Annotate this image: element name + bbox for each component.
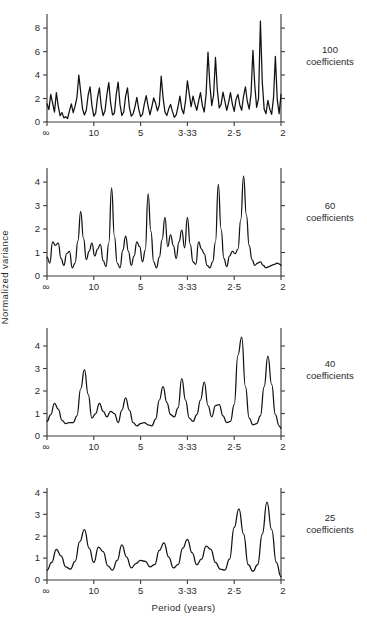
panel-label-count: 40 [288,358,367,370]
plot-40: 01234∞1053·332·52 [0,328,367,476]
svg-text:6: 6 [35,46,40,57]
svg-text:8: 8 [35,22,40,33]
svg-text:5: 5 [138,585,143,596]
plot-25: 01234∞1053·332·52 [0,488,367,620]
svg-text:3·33: 3·33 [178,281,197,292]
svg-text:2·5: 2·5 [227,441,241,452]
svg-text:10: 10 [89,281,100,292]
svg-text:∞: ∞ [43,585,50,596]
panel-40-coefficients: 01234∞1053·332·5240coefficients [0,328,367,476]
panel-label-word: coefficients [306,56,353,67]
spectrum-curve [47,176,281,268]
svg-text:0: 0 [35,270,40,281]
svg-text:0: 0 [35,116,40,127]
svg-text:2: 2 [35,223,40,234]
svg-text:4: 4 [35,176,40,187]
svg-text:3: 3 [35,363,40,374]
svg-text:2·5: 2·5 [227,127,241,138]
svg-text:5: 5 [138,127,143,138]
panel-label-word: coefficients [306,370,353,381]
svg-text:2: 2 [280,127,285,138]
panel-60-coefficients: 01234∞1053·332·5260coefficients [0,168,367,316]
svg-text:∞: ∞ [43,281,50,292]
svg-text:0: 0 [35,430,40,441]
svg-text:3·33: 3·33 [178,585,197,596]
svg-text:2: 2 [280,441,285,452]
svg-text:2: 2 [35,531,40,542]
panel-label-count: 100 [288,44,367,56]
panel-label-60: 60coefficients [288,200,367,224]
svg-text:4: 4 [35,69,40,80]
panel-label-25: 25coefficients [288,512,367,536]
panel-label-40: 40coefficients [288,358,367,382]
panel-label-count: 25 [288,512,367,524]
svg-text:5: 5 [138,281,143,292]
x-axis-title: Period (years) [0,602,367,613]
svg-text:3: 3 [35,509,40,520]
figure-spectral-panels: Normalized variance 02468∞1053·332·52100… [0,0,367,620]
panel-label-count: 60 [288,200,367,212]
svg-text:2: 2 [35,385,40,396]
spectrum-curve [47,337,281,428]
svg-text:10: 10 [89,127,100,138]
svg-text:0: 0 [35,574,40,585]
svg-text:1: 1 [35,552,40,563]
svg-text:2: 2 [280,585,285,596]
plot-60: 01234∞1053·332·52 [0,168,367,316]
svg-text:5: 5 [138,441,143,452]
spectrum-curve [47,21,281,118]
svg-text:2·5: 2·5 [227,281,241,292]
svg-text:2·5: 2·5 [227,585,241,596]
spectrum-curve [47,502,281,576]
panel-label-word: coefficients [306,524,353,535]
svg-text:4: 4 [35,340,40,351]
panel-label-word: coefficients [306,212,353,223]
svg-text:10: 10 [89,441,100,452]
svg-text:∞: ∞ [43,441,50,452]
svg-text:3·33: 3·33 [178,441,197,452]
svg-text:∞: ∞ [43,127,50,138]
plot-100: 02468∞1053·332·52 [0,14,367,162]
panel-25-coefficients: 01234∞1053·332·5225coefficientsPeriod (y… [0,488,367,620]
panel-100-coefficients: 02468∞1053·332·52100coefficients [0,14,367,162]
panel-label-100: 100coefficients [288,44,367,68]
svg-text:10: 10 [89,585,100,596]
svg-text:1: 1 [35,247,40,258]
svg-text:1: 1 [35,408,40,419]
page-header-bleed [95,0,295,9]
svg-text:2: 2 [35,93,40,104]
svg-text:3·33: 3·33 [178,127,197,138]
svg-text:2: 2 [280,281,285,292]
svg-text:4: 4 [35,488,40,498]
svg-text:3: 3 [35,200,40,211]
